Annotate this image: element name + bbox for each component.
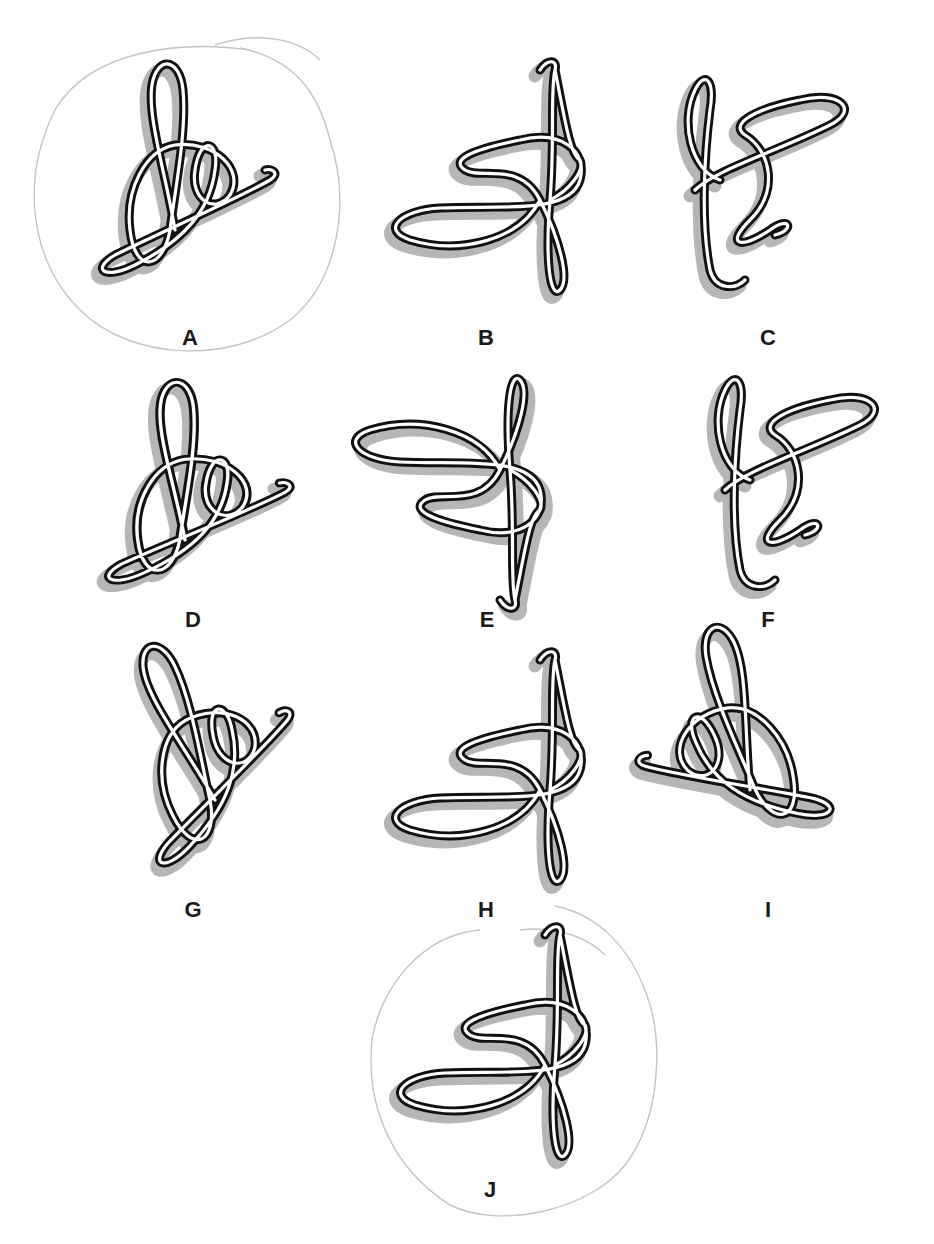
figure-label-j: J xyxy=(484,1177,496,1203)
knot-figure-a xyxy=(97,64,275,278)
puzzle-page: A B C D E F G H I J xyxy=(0,0,934,1244)
hand-drawn-circle-j xyxy=(371,906,657,1216)
knot-figure-c xyxy=(683,80,844,293)
knot-figure-d xyxy=(103,382,289,586)
figure-label-c: C xyxy=(760,325,776,351)
knot-figures xyxy=(0,0,934,1244)
knot-figure-j xyxy=(396,927,587,1163)
knot-figure-f xyxy=(713,380,874,593)
knot-figure-b xyxy=(391,62,582,298)
figure-label-f: F xyxy=(761,607,774,633)
knot-figure-e xyxy=(356,378,547,614)
figure-label-g: G xyxy=(184,897,201,923)
figure-label-a: A xyxy=(182,325,198,351)
knot-figure-g xyxy=(85,610,325,872)
figure-label-b: B xyxy=(478,325,494,351)
figure-label-d: D xyxy=(185,607,201,633)
figure-label-e: E xyxy=(480,607,495,633)
knot-figure-h xyxy=(391,652,582,888)
knot-figure-i xyxy=(606,611,833,864)
figure-label-i: I xyxy=(765,897,771,923)
figure-label-h: H xyxy=(478,897,494,923)
